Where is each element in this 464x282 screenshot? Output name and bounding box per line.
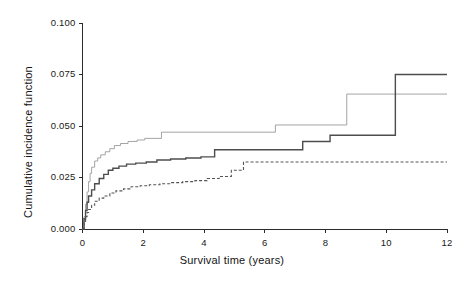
y-tick-label: 0.025	[36, 171, 76, 182]
y-tick-label: 0.000	[36, 223, 76, 234]
x-tick-label: 12	[432, 237, 462, 248]
y-tick-label: 0.100	[36, 17, 76, 28]
cumulative-incidence-chart: 0.0000.0250.0500.0750.100 024681012 Surv…	[0, 0, 464, 282]
axes-lines	[83, 23, 448, 229]
x-tick-label: 0	[68, 237, 98, 248]
tick-marks	[79, 23, 448, 233]
y-tick-label: 0.075	[36, 68, 76, 79]
x-tick-label: 2	[128, 237, 158, 248]
x-axis-title: Survival time (years)	[0, 254, 464, 266]
y-axis-title: Cumulative incidence function	[22, 66, 34, 218]
series-line-series-lower-dashed	[83, 162, 448, 229]
data-series-group	[83, 75, 448, 230]
series-line-series-middle-solid	[83, 75, 448, 230]
x-tick-label: 8	[311, 237, 341, 248]
x-tick-label: 4	[189, 237, 219, 248]
y-tick-label: 0.050	[36, 120, 76, 131]
x-tick-label: 10	[371, 237, 401, 248]
x-tick-label: 6	[250, 237, 280, 248]
